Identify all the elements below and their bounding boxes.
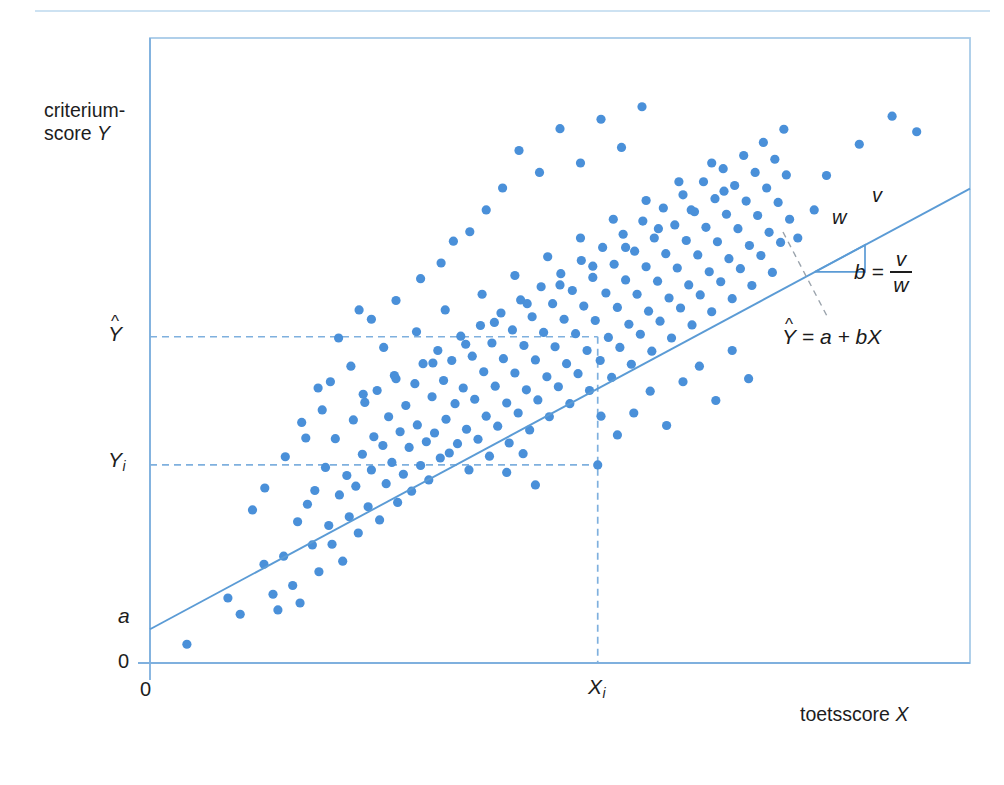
scatter-point — [674, 177, 683, 186]
scatter-point — [676, 303, 685, 312]
scatter-point — [349, 415, 358, 424]
scatter-point — [502, 468, 511, 477]
scatter-point — [610, 260, 619, 269]
scatter-point — [646, 387, 655, 396]
scatter-point — [705, 267, 714, 276]
scatter-point — [369, 432, 378, 441]
scatter-point — [568, 286, 577, 295]
scatter-point — [384, 412, 393, 421]
scatter-point — [491, 382, 500, 391]
scatter-point — [338, 557, 347, 566]
scatter-point — [782, 170, 791, 179]
scatter-point — [378, 441, 387, 450]
scatter-point — [487, 338, 496, 347]
scatter-point — [744, 374, 753, 383]
scatter-point — [273, 605, 282, 614]
scatter-point — [733, 224, 742, 233]
scatter-point — [724, 254, 733, 263]
scatter-point — [462, 425, 471, 434]
scatter-point — [687, 320, 696, 329]
scatter-point — [667, 333, 676, 342]
slope-formula-numerator: v — [893, 248, 910, 271]
scatter-point — [695, 362, 704, 371]
scatter-point — [514, 146, 523, 155]
scatter-point — [642, 196, 651, 205]
scatter-point — [358, 450, 367, 459]
scatter-point — [661, 249, 670, 258]
scatter-point — [493, 422, 502, 431]
scatter-point — [523, 299, 532, 308]
scatter-point — [236, 610, 245, 619]
scatter-point — [604, 333, 613, 342]
scatter-point — [554, 382, 563, 391]
scatter-point — [636, 330, 645, 339]
scatter-plot-svg — [0, 0, 1004, 785]
slope-formula-equals: = — [872, 260, 884, 284]
scatter-point — [355, 305, 364, 314]
scatter-point — [399, 470, 408, 479]
slope-formula-fraction: v w — [890, 248, 912, 296]
scatter-point — [327, 540, 336, 549]
scatter-point — [654, 224, 663, 233]
scatter-point — [473, 435, 482, 444]
scatter-point — [670, 220, 679, 229]
scatter-point — [630, 247, 639, 256]
y-tick-y-i-text: Y — [108, 448, 122, 471]
scatter-point — [450, 399, 459, 408]
scatter-point — [441, 415, 450, 424]
scatter-point — [482, 412, 491, 421]
scatter-point — [456, 332, 465, 341]
scatter-point — [461, 340, 470, 349]
scatter-point — [576, 158, 585, 167]
scatter-point — [297, 418, 306, 427]
scatter-point — [413, 420, 422, 429]
scatter-point — [659, 203, 668, 212]
scatter-point — [412, 327, 421, 336]
scatter-point — [722, 210, 731, 219]
scatter-point — [354, 528, 363, 537]
scatter-point — [391, 374, 400, 383]
scatter-point — [533, 395, 542, 404]
scatter-point — [753, 211, 762, 220]
scatter-point — [779, 125, 788, 134]
scatter-point — [505, 438, 514, 447]
scatter-point — [528, 312, 537, 321]
scatter-point — [673, 263, 682, 272]
scatter-point — [736, 264, 745, 273]
scatter-point — [596, 356, 605, 365]
scatter-point — [542, 372, 551, 381]
scatter-point — [360, 398, 369, 407]
hat-caret-icon: ^ — [111, 311, 119, 331]
scatter-point — [418, 359, 427, 368]
scatter-point — [405, 443, 414, 452]
scatter-point — [745, 241, 754, 250]
scatter-point — [422, 437, 431, 446]
scatter-point — [490, 318, 499, 327]
scatter-point — [624, 320, 633, 329]
scatter-point — [728, 346, 737, 355]
scatter-point — [531, 480, 540, 489]
scatter-point — [401, 401, 410, 410]
scatter-point — [747, 281, 756, 290]
slope-run-label: w — [832, 206, 846, 230]
scatter-point — [535, 168, 544, 177]
scatter-point — [510, 368, 519, 377]
scatter-point — [621, 275, 630, 284]
scatter-point — [742, 197, 751, 206]
y-tick-label-y-hat: ^Y — [108, 322, 122, 347]
x-tick-x-i-text: X — [588, 675, 602, 698]
scatter-point — [437, 258, 446, 267]
scatter-point — [601, 288, 610, 297]
scatter-point — [318, 405, 327, 414]
scatter-point — [436, 453, 445, 462]
scatter-point — [711, 396, 720, 405]
scatter-point — [699, 177, 708, 186]
scatter-point — [556, 269, 565, 278]
scatter-point — [514, 408, 523, 417]
scatter-point — [664, 293, 673, 302]
scatter-point — [430, 428, 439, 437]
scatter-point — [682, 236, 691, 245]
scatter-point — [650, 233, 659, 242]
scatter-point — [314, 383, 323, 392]
y-tick-label-intercept-a: a — [118, 604, 130, 629]
